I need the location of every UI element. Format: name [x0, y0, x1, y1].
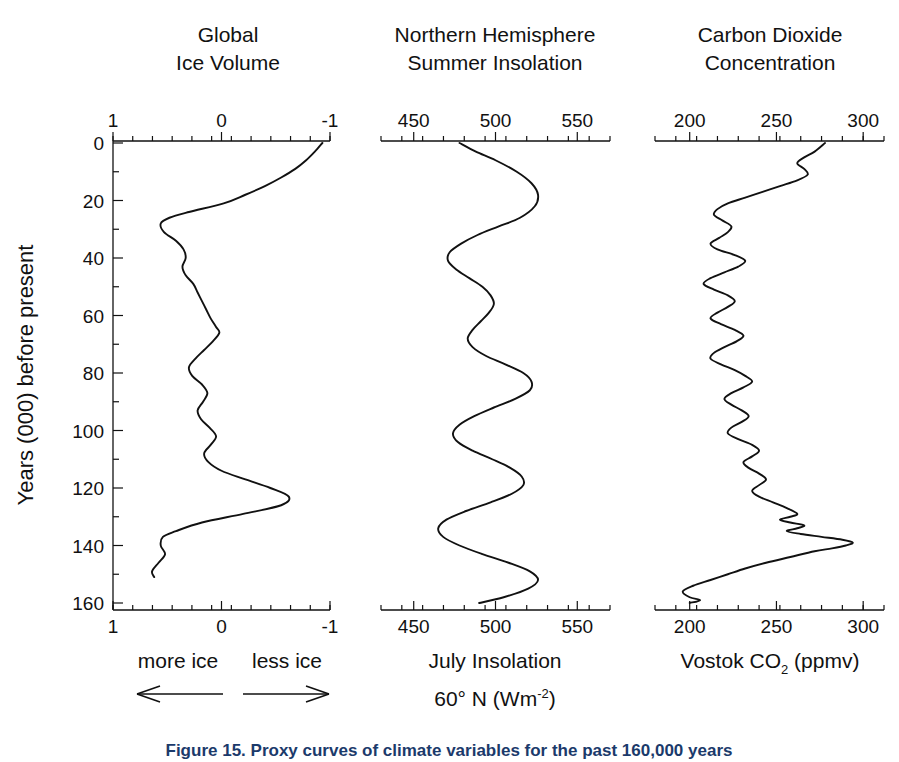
x-tick-label-top: 250 — [761, 110, 793, 131]
bottom-captions: more ice less ice July Insolation 60° N … — [137, 649, 859, 710]
panel-title-ice-line2: Ice Volume — [176, 51, 280, 74]
y-tick-label: 60 — [83, 306, 104, 327]
x-tick-label-top: 500 — [480, 110, 512, 131]
y-tick-label: 120 — [72, 478, 104, 499]
x-tick-label-bottom: 500 — [480, 616, 512, 637]
x-tick-label-top: 200 — [674, 110, 706, 131]
y-tick-labels: 020406080100120140160 — [72, 133, 104, 614]
panel-title-ice-line1: Global — [198, 23, 259, 46]
figure-canvas: Global Ice Volume Northern Hemisphere Su… — [0, 0, 899, 762]
insolation-units-label: 60° N (Wm-2) — [434, 686, 555, 710]
y-tick-marks — [113, 143, 123, 603]
july-insolation-label: July Insolation — [428, 649, 561, 672]
x-tick-label-bottom: 450 — [398, 616, 430, 637]
vostok-co2-post: (ppmv) — [788, 649, 859, 672]
vostok-co2-pre: Vostok CO — [681, 649, 781, 672]
panel-title-co2-line1: Carbon Dioxide — [698, 23, 843, 46]
data-curve-northern-hemisphere-summer-insolation — [438, 143, 538, 603]
x-tick-label-top: 1 — [108, 110, 119, 131]
more-ice-label: more ice — [138, 649, 219, 672]
x-tick-label-bottom: 550 — [561, 616, 593, 637]
y-tick-label: 160 — [72, 593, 104, 614]
y-tick-label: 20 — [83, 191, 104, 212]
x-tick-label-top: 550 — [561, 110, 593, 131]
vostok-co2-subscript: 2 — [781, 662, 788, 677]
x-tick-label-bottom: 300 — [847, 616, 879, 637]
x-tick-label-bottom: 250 — [761, 616, 793, 637]
data-curve-global-ice-volume — [152, 143, 322, 577]
panel-axes — [113, 132, 884, 610]
panel-title-co2-line2: Concentration — [705, 51, 836, 74]
data-curves — [152, 143, 853, 603]
x-tick-label-top: -1 — [322, 110, 339, 131]
less-ice-label: less ice — [252, 649, 322, 672]
y-tick-label: 80 — [83, 363, 104, 384]
panel-titles: Global Ice Volume Northern Hemisphere Su… — [176, 23, 842, 74]
data-curve-carbon-dioxide-concentration — [683, 143, 853, 603]
paleoclimate-figure: Global Ice Volume Northern Hemisphere Su… — [0, 0, 899, 762]
insolation-units-pre: 60° N (Wm — [434, 687, 537, 710]
y-axis-label: Years (000) before present — [13, 245, 38, 506]
y-tick-label: 100 — [72, 421, 104, 442]
panel-title-insolation-line2: Summer Insolation — [407, 51, 582, 74]
panel-title-insolation-line1: Northern Hemisphere — [395, 23, 596, 46]
x-tick-label-top: 300 — [847, 110, 879, 131]
x-tick-label-top: 450 — [398, 110, 430, 131]
x-tick-label-bottom: 1 — [108, 616, 119, 637]
y-axis: Years (000) before present 0204060801001… — [13, 133, 123, 614]
y-tick-label: 0 — [93, 133, 104, 154]
insolation-units-post: ) — [549, 687, 556, 710]
y-tick-label: 140 — [72, 536, 104, 557]
insolation-units-exponent: -2 — [537, 686, 549, 701]
x-tick-label-bottom: 0 — [216, 616, 227, 637]
x-tick-label-top: 0 — [216, 110, 227, 131]
x-tick-label-bottom: -1 — [322, 616, 339, 637]
figure-caption: Figure 15. Proxy curves of climate varia… — [166, 741, 733, 760]
vostok-co2-label: Vostok CO2 (ppmv) — [681, 649, 860, 677]
x-tick-label-bottom: 200 — [674, 616, 706, 637]
y-tick-label: 40 — [83, 248, 104, 269]
left-arrow-icon — [137, 686, 223, 702]
right-arrow-icon — [243, 686, 329, 702]
